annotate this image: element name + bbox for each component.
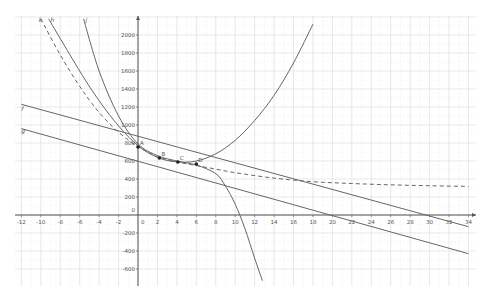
y-tick-label: -400 <box>123 248 136 254</box>
curve-labels: khjfg <box>21 16 87 135</box>
x-tick-label: 8 <box>214 219 218 225</box>
x-tick-label: 6 <box>195 219 199 225</box>
x-tick-label: 4 <box>175 219 179 225</box>
y-tick-label: 200 <box>125 194 136 200</box>
y-tick-label: 1600 <box>121 68 135 74</box>
x-tick-label: -12 <box>17 219 26 225</box>
y-tick-label: 2000 <box>121 32 135 38</box>
x-tick-label: 2 <box>156 219 160 225</box>
x-tick-label: 0 <box>141 219 145 225</box>
y-tick-label: 1800 <box>121 50 135 56</box>
y-tick-label: 1400 <box>121 86 135 92</box>
x-tick-label: 20 <box>329 219 336 225</box>
point-label-D: D <box>198 157 202 163</box>
y-tick-label: -600 <box>123 266 136 272</box>
x-tick-label: 10 <box>232 219 239 225</box>
curve-h[interactable] <box>49 19 313 162</box>
x-tick-label: 28 <box>407 219 414 225</box>
x-tick-label: 30 <box>426 219 433 225</box>
x-tick-label: -6 <box>77 219 83 225</box>
y-tick-label: 400 <box>125 176 136 182</box>
curve-g[interactable] <box>21 129 468 254</box>
x-tick-label: 26 <box>387 219 394 225</box>
curve-j[interactable] <box>84 19 263 281</box>
x-tick-label: 24 <box>368 219 375 225</box>
curve-label-j: j <box>85 16 88 24</box>
x-tick-label: 18 <box>309 219 316 225</box>
y-axis-arrow-icon <box>136 16 140 20</box>
graphics-view[interactable]: -12-10-8-6-4-202468101214161820222426283… <box>0 0 491 294</box>
x-tick-label: 12 <box>251 219 258 225</box>
y-tick-label: 0 <box>132 207 136 213</box>
x-tick-label: -10 <box>36 219 45 225</box>
point-label-C: C <box>180 155 184 161</box>
curve-label-f: f <box>21 105 24 112</box>
y-tick-label: 1200 <box>121 104 135 110</box>
x-tick-label: 14 <box>271 219 278 225</box>
grid <box>15 16 476 286</box>
point-label-A: A <box>140 140 144 146</box>
x-tick-label: 16 <box>290 219 297 225</box>
curve-label-k: k <box>39 16 43 23</box>
curve-label-g: g <box>21 127 25 135</box>
point-label-B: B <box>161 151 165 157</box>
x-axis-arrow-icon <box>472 213 476 217</box>
x-tick-label: 34 <box>465 219 472 225</box>
axes <box>15 16 476 286</box>
x-tick-label: -8 <box>57 219 63 225</box>
y-tick-label: -200 <box>123 230 136 236</box>
x-tick-label: -2 <box>116 219 121 225</box>
curve-label-h: h <box>51 16 55 23</box>
x-tick-label: -4 <box>96 219 102 225</box>
y-tick-label: 800 <box>125 140 136 146</box>
